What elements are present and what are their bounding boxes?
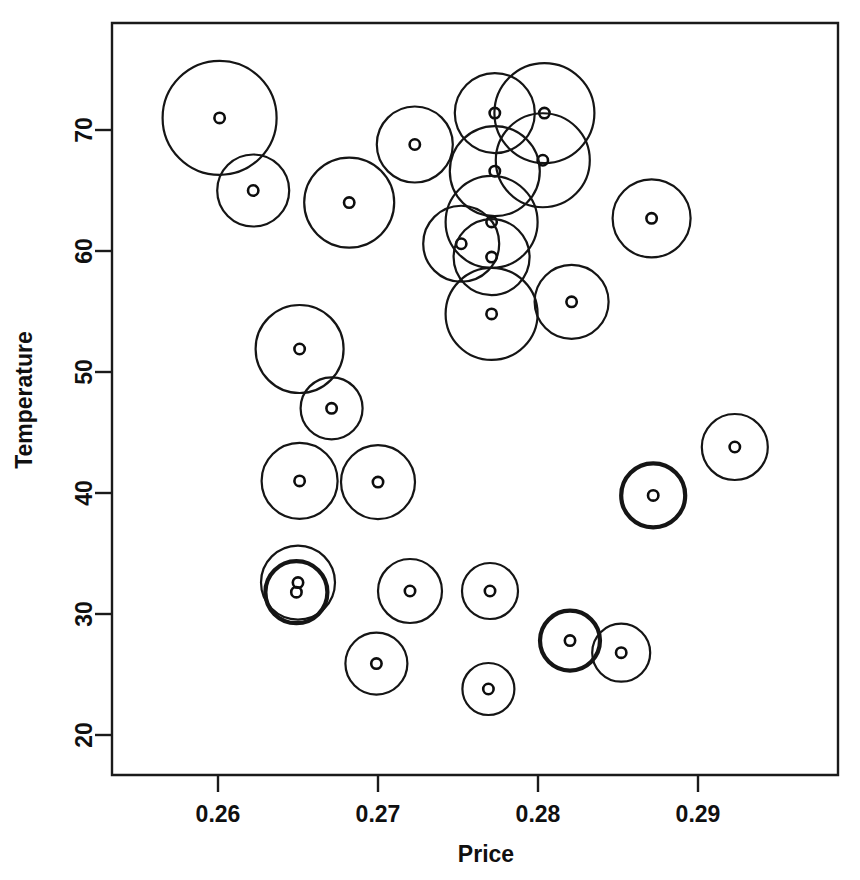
- bubble-marker: [341, 445, 415, 519]
- bubble-marker: [423, 206, 499, 282]
- bubble-center-point: [248, 185, 258, 195]
- chart-canvas: 0.260.270.280.29 203040506070 Price Temp…: [0, 0, 860, 880]
- x-axis-tick-labels: 0.260.270.280.29: [196, 801, 721, 827]
- y-tick-label: 60: [71, 238, 97, 264]
- bubble-center-point: [565, 635, 575, 645]
- bubble-marker: [496, 113, 590, 207]
- y-tick-label: 40: [71, 480, 97, 506]
- x-axis-ticks: [218, 775, 698, 792]
- bubble-center-point: [326, 403, 336, 413]
- bubble-marker: [163, 61, 277, 175]
- bubble-marker: [304, 158, 394, 248]
- bubble-center-point: [405, 586, 415, 596]
- bubble-marker: [613, 179, 691, 257]
- bubble-marker: [592, 624, 650, 682]
- bubble-marker: [462, 663, 514, 715]
- bubble-marker: [462, 563, 518, 619]
- bubble-marker: [446, 268, 538, 360]
- x-tick-label: 0.26: [196, 801, 241, 827]
- bubble-center-point: [371, 658, 381, 668]
- bubble-center-point: [616, 648, 626, 658]
- bubble-center-point: [483, 684, 493, 694]
- y-tick-label: 70: [71, 117, 97, 143]
- bubble-marker: [378, 559, 442, 623]
- x-tick-label: 0.29: [676, 801, 721, 827]
- bubble-marker: [540, 611, 600, 671]
- y-tick-label: 20: [71, 722, 97, 748]
- bubble-center-point: [373, 477, 383, 487]
- bubble-series: [163, 61, 768, 715]
- x-tick-label: 0.27: [356, 801, 401, 827]
- bubble-center-point: [490, 166, 500, 176]
- x-tick-label: 0.28: [516, 801, 561, 827]
- x-axis-title: Price: [458, 841, 514, 867]
- y-tick-label: 30: [71, 601, 97, 627]
- bubble-center-point: [485, 586, 495, 596]
- bubble-center-point: [344, 197, 354, 207]
- bubble-marker: [217, 155, 289, 227]
- bubble-center-point: [486, 252, 496, 262]
- bubble-marker: [535, 265, 609, 339]
- bubble-center-point: [294, 344, 304, 354]
- bubble-marker: [262, 443, 338, 519]
- bubble-marker: [621, 463, 685, 527]
- y-axis-tick-labels: 203040506070: [71, 117, 97, 748]
- bubble-chart: 0.260.270.280.29 203040506070 Price Temp…: [0, 0, 860, 880]
- y-tick-label: 50: [71, 359, 97, 385]
- bubble-center-point: [410, 139, 420, 149]
- y-axis-title: Temperature: [11, 331, 37, 469]
- bubble-marker: [450, 126, 540, 216]
- bubble-marker: [256, 305, 344, 393]
- bubble-marker: [345, 633, 407, 695]
- plot-border: [112, 23, 838, 775]
- plot-frame: [112, 23, 838, 775]
- bubble-center-point: [566, 297, 576, 307]
- bubble-marker: [301, 377, 363, 439]
- bubble-center-point: [294, 476, 304, 486]
- bubble-center-point: [486, 309, 496, 319]
- bubble-marker: [454, 219, 530, 295]
- bubble-center-point: [648, 490, 658, 500]
- bubble-marker: [377, 107, 453, 183]
- y-axis-ticks: [95, 130, 112, 735]
- bubble-marker: [702, 414, 768, 480]
- bubble-marker: [265, 561, 327, 623]
- bubble-center-point: [730, 442, 740, 452]
- bubble-center-point: [646, 213, 656, 223]
- bubble-center-point: [214, 113, 224, 123]
